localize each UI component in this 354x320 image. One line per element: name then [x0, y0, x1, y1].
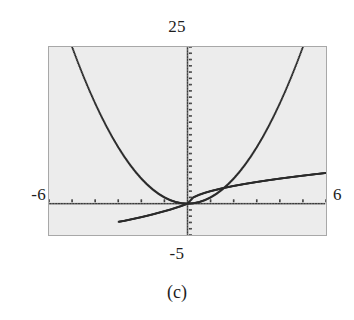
y-min-label: -5	[0, 245, 354, 262]
calculator-viewing-window	[48, 46, 327, 236]
y-max-label: 25	[0, 18, 354, 35]
x-max-label: 6	[333, 186, 342, 203]
plot-canvas	[49, 47, 326, 235]
figure-container: 25 -6 6 -5 (c)	[0, 0, 354, 320]
x-min-label: -6	[8, 186, 46, 203]
curves-layer	[71, 47, 326, 223]
axes-layer	[49, 47, 326, 235]
figure-caption: (c)	[0, 283, 354, 301]
